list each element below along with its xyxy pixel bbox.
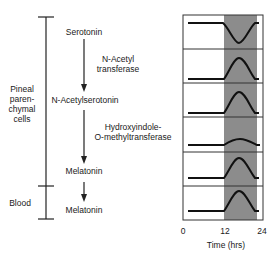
compound-melatonin-pineal: Melatonin bbox=[54, 166, 114, 176]
compartment-label-blood: Blood bbox=[2, 198, 38, 208]
x-tick-0: 0 bbox=[178, 226, 188, 236]
compartment-label-pineal: Pineal paren- chymal cells bbox=[2, 84, 42, 124]
compound-melatonin-blood: Melatonin bbox=[54, 205, 114, 215]
compound-n-acetylserotonin: N-Acetylserotonin bbox=[44, 95, 126, 105]
label-line: Blood bbox=[2, 198, 38, 208]
label-line: N-Acetyl bbox=[92, 54, 144, 64]
label-line: transferase bbox=[92, 64, 144, 74]
arrow-icon bbox=[81, 110, 87, 164]
label-line: paren- bbox=[2, 94, 42, 104]
x-tick-24: 24 bbox=[255, 226, 269, 236]
enzyme-n-acetyltransferase: N-Acetyl transferase bbox=[92, 54, 144, 74]
label-line: Pineal bbox=[2, 84, 42, 94]
x-tick-12: 12 bbox=[218, 226, 232, 236]
enzyme-hiomt: Hydroxyindole- O-methyltransferase bbox=[88, 122, 178, 142]
label-line: cells bbox=[2, 114, 42, 124]
x-axis-label: Time (hrs) bbox=[196, 240, 256, 250]
arrow-icon bbox=[81, 39, 87, 92]
label-line: Hydroxyindole- bbox=[88, 122, 178, 132]
compound-serotonin: Serotonin bbox=[54, 27, 114, 37]
label-line: O-methyltransferase bbox=[88, 132, 178, 142]
label-line: chymal bbox=[2, 104, 42, 114]
arrow-icon bbox=[81, 182, 87, 202]
time-course-chart bbox=[183, 15, 263, 220]
